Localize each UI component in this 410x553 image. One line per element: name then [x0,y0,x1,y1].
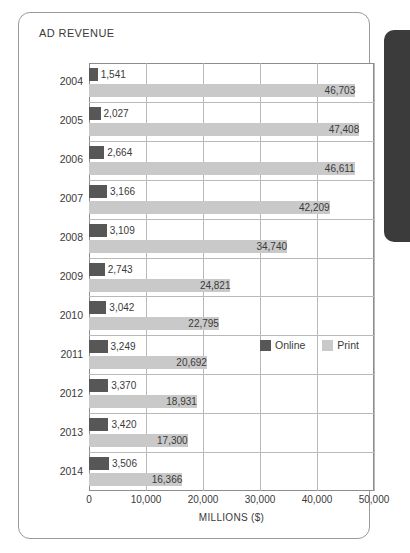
bar-value-label-online: 3,166 [107,185,135,198]
bar-value-label-online: 3,249 [108,340,136,353]
bar-row: 3,50616,366 [89,452,374,491]
bar-row: 2,74324,821 [89,258,374,297]
x-tick-label: 0 [86,494,92,505]
year-label: 2004 [41,75,83,87]
bar-row: 3,16642,209 [89,180,374,219]
page-edge-artifact [384,30,410,242]
bar-value-label-print: 42,209 [89,201,330,214]
x-tick-label: 20,000 [188,494,219,505]
bar-online [89,379,108,392]
chart-plot-area: 1,54146,7032,02747,4082,66446,6113,16642… [89,63,374,491]
x-axis-title: MILLIONS ($) [89,512,374,523]
legend-label-print: Print [337,339,359,351]
year-label: 2007 [41,192,83,204]
bar-value-label-online: 2,664 [104,146,132,159]
bar-row: 2,02747,408 [89,102,374,141]
bar-value-label-online: 3,506 [109,457,137,470]
bar-online [89,263,105,276]
bar-online [89,301,106,314]
legend-swatch-print [322,340,333,351]
legend-item-print: Print [322,339,359,351]
bar-online [89,224,107,237]
x-tick-label: 50,000 [359,494,390,505]
x-tick-label: 30,000 [245,494,276,505]
bar-value-label-print: 16,366 [89,473,182,486]
gridline-vertical [374,63,375,491]
bar-online [89,146,104,159]
bar-value-label-print: 18,931 [89,395,197,408]
bar-row: 3,10934,740 [89,219,374,258]
bar-value-label-print: 46,611 [89,162,355,175]
bar-value-label-online: 3,420 [108,418,136,431]
bar-value-label-online: 2,027 [101,107,129,120]
year-label: 2014 [41,465,83,477]
bar-row: 2,66446,611 [89,141,374,180]
bar-value-label-print: 22,795 [89,317,219,330]
legend-swatch-online [260,340,271,351]
bar-value-label-print: 20,692 [89,356,207,369]
chart-title: AD REVENUE [39,27,115,39]
year-label: 2005 [41,114,83,126]
bar-value-label-online: 3,370 [108,379,136,392]
bar-value-label-print: 47,408 [89,123,359,136]
bar-row: 3,04222,795 [89,296,374,335]
bar-online [89,418,108,431]
bar-online [89,185,107,198]
chart-card: AD REVENUE 1,54146,7032,02747,4082,66446… [18,12,370,539]
year-label: 2012 [41,387,83,399]
bar-online [89,457,109,470]
bar-value-label-print: 34,740 [89,240,287,253]
bar-online [89,68,98,81]
bar-value-label-print: 46,703 [89,84,355,97]
bar-value-label-online: 1,541 [98,68,126,81]
bar-value-label-online: 3,109 [107,224,135,237]
x-tick-label: 40,000 [302,494,333,505]
year-label: 2009 [41,270,83,282]
year-label: 2008 [41,231,83,243]
chart-legend: Online Print [260,339,359,351]
x-tick-label: 10,000 [131,494,162,505]
year-label: 2013 [41,426,83,438]
legend-item-online: Online [260,339,305,351]
bar-value-label-print: 24,821 [89,279,230,292]
bar-online [89,340,108,353]
year-label: 2011 [41,348,83,360]
legend-label-online: Online [275,339,305,351]
bar-value-label-print: 17,300 [89,434,188,447]
bar-row: 3,37018,931 [89,374,374,413]
bar-row: 3,42017,300 [89,413,374,452]
bar-value-label-online: 3,042 [106,301,134,314]
year-label: 2010 [41,309,83,321]
bar-online [89,107,101,120]
bar-value-label-online: 2,743 [105,263,133,276]
year-label: 2006 [41,153,83,165]
bar-row: 1,54146,703 [89,63,374,102]
